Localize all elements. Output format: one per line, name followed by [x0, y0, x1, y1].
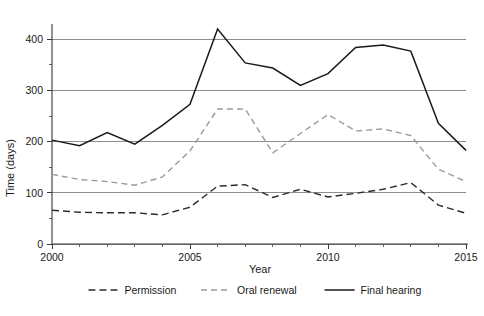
series-line-oral-renewal — [52, 109, 466, 185]
legend-label-final-hearing: Final hearing — [361, 284, 422, 296]
x-tick-label-2000: 2000 — [40, 251, 64, 263]
x-axis-title: Year — [249, 263, 272, 275]
series-line-permission — [52, 183, 466, 215]
y-tick-label-100: 100 — [25, 187, 43, 199]
chart-svg: 0100200300400 2000200520102015 Time (day… — [0, 0, 484, 316]
series-lines — [52, 29, 466, 215]
y-tick-label-200: 200 — [25, 135, 43, 147]
x-axis-ticks — [52, 244, 466, 249]
x-tick-label-2010: 2010 — [316, 251, 340, 263]
y-tick-label-400: 400 — [25, 33, 43, 45]
y-axis-tick-labels: 0100200300400 — [25, 33, 43, 250]
y-tick-label-0: 0 — [37, 238, 43, 250]
chart-legend: PermissionOral renewalFinal hearing — [88, 284, 421, 296]
gridlines — [52, 39, 466, 244]
x-axis-tick-labels: 2000200520102015 — [40, 251, 478, 263]
y-tick-label-300: 300 — [25, 84, 43, 96]
legend-label-oral-renewal: Oral renewal — [237, 284, 297, 296]
legend-label-permission: Permission — [124, 284, 176, 296]
x-tick-label-2005: 2005 — [178, 251, 202, 263]
line-chart: 0100200300400 2000200520102015 Time (day… — [0, 0, 484, 316]
y-axis-title: Time (days) — [4, 139, 16, 197]
y-axis-ticks — [47, 39, 52, 244]
x-tick-label-2015: 2015 — [454, 251, 478, 263]
